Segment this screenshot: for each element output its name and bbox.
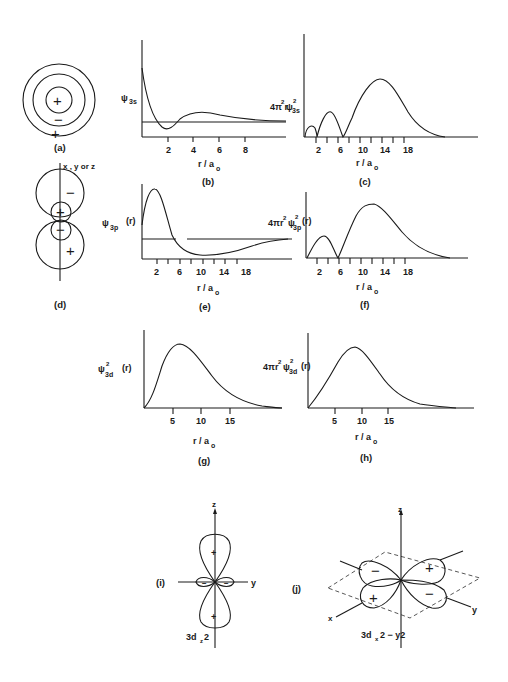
panel-b-psi3s-plot: ψ 3s 2 4 6 8 r / a o (b) xyxy=(121,40,286,187)
svg-text:−: − xyxy=(66,184,75,201)
ylabel-sub: 3s xyxy=(129,98,137,105)
svg-text:−: − xyxy=(425,585,434,602)
svg-text:+: + xyxy=(66,242,75,259)
panel-i-3dz2-orbital: z y + − − + (i) 3d z 2 xyxy=(156,500,256,648)
svg-text:x: x xyxy=(375,636,379,642)
svg-text:2: 2 xyxy=(204,632,209,642)
svg-text:15: 15 xyxy=(225,416,235,426)
svg-text:3d: 3d xyxy=(361,630,372,640)
panel-f-radial-density-3p: 4πr 2 ψ 2 3p (r) 2 6 10 14 18 r / a o (f… xyxy=(268,192,468,310)
svg-text:ψ: ψ xyxy=(98,364,105,374)
svg-text:14: 14 xyxy=(219,267,229,277)
svg-text:r / a: r / a xyxy=(356,282,373,292)
svg-text:z: z xyxy=(212,500,216,509)
panel-c-radial-density-3s: 4π r 2 ψ 2 3s 2 6 10 14 18 r / a o (c) xyxy=(270,34,478,187)
svg-text:(r): (r) xyxy=(301,361,311,371)
svg-text:2: 2 xyxy=(290,358,294,364)
panel-a-3s-circles: + − + (a) xyxy=(23,64,95,153)
svg-text:o: o xyxy=(216,165,220,172)
svg-text:r / a: r / a xyxy=(355,432,372,442)
svg-text:(r): (r) xyxy=(302,216,312,226)
svg-text:2 − y2: 2 − y2 xyxy=(380,630,405,640)
svg-text:3p: 3p xyxy=(293,224,301,232)
svg-text:o: o xyxy=(211,442,215,449)
svg-text:10: 10 xyxy=(358,145,368,155)
svg-text:y: y xyxy=(472,605,477,615)
svg-text:2: 2 xyxy=(166,145,171,155)
svg-text:r / a: r / a xyxy=(197,283,214,293)
svg-text:+: + xyxy=(211,548,216,558)
caption-a: (a) xyxy=(54,142,66,153)
svg-text:2: 2 xyxy=(283,215,287,221)
svg-text:14: 14 xyxy=(380,267,390,277)
svg-text:−: − xyxy=(371,562,380,579)
svg-text:3d: 3d xyxy=(186,632,197,642)
svg-text:−: − xyxy=(224,579,229,588)
caption-d: (d) xyxy=(54,299,66,310)
svg-text:z: z xyxy=(398,505,402,514)
svg-text:z: z xyxy=(200,638,203,644)
svg-text:o: o xyxy=(215,289,219,296)
svg-text:5: 5 xyxy=(170,416,175,426)
svg-text:4πr: 4πr xyxy=(268,218,284,228)
svg-text:10: 10 xyxy=(357,416,367,426)
panel-d-3p-lobes: x , y or z − + − + (d) xyxy=(36,162,95,310)
svg-text:+: + xyxy=(425,559,434,576)
sign-plus: + xyxy=(53,92,62,109)
caption-h: (h) xyxy=(360,452,372,463)
svg-text:2: 2 xyxy=(295,214,299,220)
svg-text:3d: 3d xyxy=(289,368,297,375)
caption-e: (e) xyxy=(199,301,211,312)
panel-g-psi2-3d-plot: ψ 2 3d (r) 5 10 15 r / a o (g) xyxy=(98,330,282,466)
svg-text:10: 10 xyxy=(358,267,368,277)
svg-text:2: 2 xyxy=(293,98,297,104)
caption-g: (g) xyxy=(198,455,210,466)
svg-text:−: − xyxy=(202,579,207,588)
svg-text:o: o xyxy=(374,164,378,171)
svg-text:4πr: 4πr xyxy=(263,362,279,372)
svg-text:18: 18 xyxy=(403,145,413,155)
orbital-figure: + − + (a) ψ 3s 2 4 6 8 r / a o (b) xyxy=(0,0,508,682)
svg-text:2: 2 xyxy=(316,145,321,155)
svg-text:3s: 3s xyxy=(292,107,300,114)
svg-text:3d: 3d xyxy=(105,371,113,378)
svg-text:6: 6 xyxy=(217,145,222,155)
svg-text:2: 2 xyxy=(154,267,159,277)
svg-text:6: 6 xyxy=(338,145,343,155)
svg-text:2: 2 xyxy=(278,359,282,365)
svg-text:r / a: r / a xyxy=(356,158,373,168)
svg-text:3p: 3p xyxy=(110,224,118,232)
panel-h-radial-density-3d: 4πr 2 ψ 2 3d (r) 5 10 15 r / a o (h) xyxy=(263,333,474,463)
svg-text:x: x xyxy=(328,614,333,623)
svg-text:14: 14 xyxy=(380,145,390,155)
xlabel: r / a xyxy=(198,159,215,169)
svg-text:10: 10 xyxy=(196,267,206,277)
caption-i: (i) xyxy=(156,577,165,588)
svg-text:(r): (r) xyxy=(126,216,136,226)
svg-text:o: o xyxy=(374,288,378,295)
svg-text:4: 4 xyxy=(191,145,196,155)
svg-text:18: 18 xyxy=(241,267,251,277)
svg-text:r / a: r / a xyxy=(193,436,210,446)
svg-text:(r): (r) xyxy=(122,363,132,373)
svg-text:15: 15 xyxy=(384,416,394,426)
svg-text:ψ: ψ xyxy=(102,218,109,228)
svg-text:+: + xyxy=(369,589,378,606)
caption-f: (f) xyxy=(360,299,370,310)
axis-label: x , y or z xyxy=(63,162,95,171)
svg-text:8: 8 xyxy=(243,145,248,155)
svg-text:5: 5 xyxy=(332,416,337,426)
svg-text:y: y xyxy=(251,578,256,588)
panel-j-3dx2y2-orbital: z x y − + + − (j) 3d x 2 − y2 xyxy=(292,505,480,648)
caption-b: (b) xyxy=(202,176,214,187)
svg-text:18: 18 xyxy=(403,267,413,277)
svg-text:2: 2 xyxy=(317,267,322,277)
svg-text:10: 10 xyxy=(196,416,206,426)
panel-e-psi3p-plot: ψ 3p (r) 2 6 10 14 18 r / a o (e) xyxy=(102,184,292,312)
svg-text:6: 6 xyxy=(177,267,182,277)
svg-text:6: 6 xyxy=(338,267,343,277)
svg-text:o: o xyxy=(373,438,377,445)
svg-text:2: 2 xyxy=(106,361,110,367)
svg-text:−: − xyxy=(56,221,65,238)
caption-j: (j) xyxy=(292,583,301,594)
